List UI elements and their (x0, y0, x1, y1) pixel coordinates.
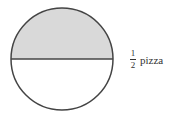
label-text: pizza (140, 54, 163, 66)
shaded-half (11, 8, 113, 59)
fraction: 1 2 (130, 49, 136, 70)
denominator: 2 (131, 61, 136, 70)
numerator: 1 (131, 49, 136, 58)
fraction-label: 1 2 pizza (130, 49, 163, 70)
